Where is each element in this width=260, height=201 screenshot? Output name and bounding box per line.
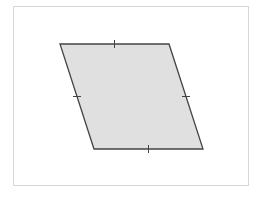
parallelogram-diagram bbox=[0, 0, 260, 201]
parallelogram bbox=[60, 44, 203, 149]
